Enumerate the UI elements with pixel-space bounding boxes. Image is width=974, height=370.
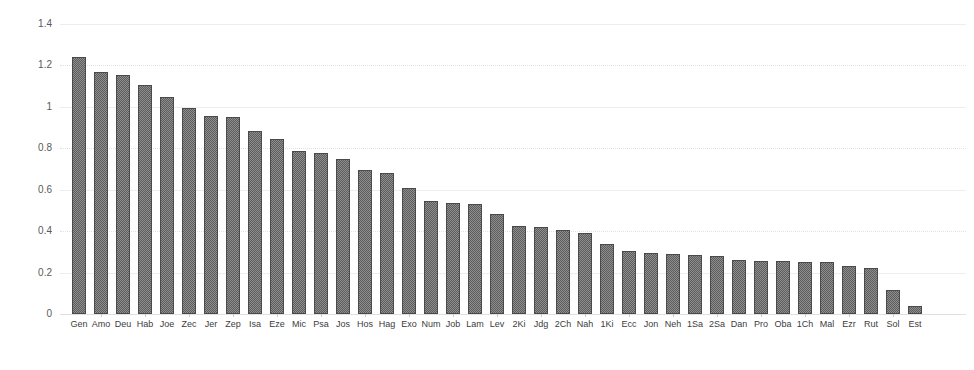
bar-slot bbox=[178, 24, 200, 314]
bar[interactable] bbox=[468, 204, 482, 314]
x-axis-tick-label: Jdg bbox=[530, 318, 552, 330]
bar[interactable] bbox=[424, 201, 438, 314]
x-axis-tick-label: Rut bbox=[860, 318, 882, 330]
x-axis-tick-label: Pro bbox=[750, 318, 772, 330]
bar-slot bbox=[772, 24, 794, 314]
x-axis-tick-mark bbox=[497, 314, 498, 317]
bar[interactable] bbox=[688, 255, 702, 314]
bar[interactable] bbox=[336, 159, 350, 314]
y-axis: 00.20.40.60.811.21.4 bbox=[0, 0, 52, 370]
x-axis-tick-mark bbox=[101, 314, 102, 317]
bar[interactable] bbox=[842, 266, 856, 314]
bar[interactable] bbox=[204, 116, 218, 314]
bar[interactable] bbox=[72, 57, 86, 314]
bar[interactable] bbox=[820, 262, 834, 314]
bar-slot bbox=[156, 24, 178, 314]
bar-slot bbox=[442, 24, 464, 314]
bar[interactable] bbox=[534, 227, 548, 314]
bar[interactable] bbox=[182, 108, 196, 314]
bar[interactable] bbox=[446, 203, 460, 314]
y-axis-tick-label: 1.4 bbox=[38, 19, 52, 29]
bar-slot bbox=[354, 24, 376, 314]
x-axis-line bbox=[60, 314, 966, 315]
bar-slot bbox=[376, 24, 398, 314]
bar-slot bbox=[838, 24, 860, 314]
bar-slot bbox=[882, 24, 904, 314]
bar[interactable] bbox=[380, 173, 394, 314]
x-axis-tick-mark bbox=[629, 314, 630, 317]
x-axis-tick-label: Num bbox=[420, 318, 442, 330]
bar[interactable] bbox=[776, 261, 790, 314]
x-axis-tick-label: Oba bbox=[772, 318, 794, 330]
bar[interactable] bbox=[622, 251, 636, 314]
x-axis-tick-label: Psa bbox=[310, 318, 332, 330]
bar[interactable] bbox=[248, 131, 262, 314]
bar-slot bbox=[706, 24, 728, 314]
bar-slot bbox=[728, 24, 750, 314]
bar[interactable] bbox=[908, 306, 922, 314]
x-axis-tick-mark bbox=[453, 314, 454, 317]
bar-slot bbox=[112, 24, 134, 314]
x-axis-tick-label: Lam bbox=[464, 318, 486, 330]
bar[interactable] bbox=[402, 188, 416, 314]
bar[interactable] bbox=[226, 117, 240, 314]
bar[interactable] bbox=[886, 290, 900, 314]
y-axis-tick-label: 1 bbox=[46, 102, 52, 112]
bar-slot bbox=[860, 24, 882, 314]
x-axis-tick-label: Zep bbox=[222, 318, 244, 330]
x-axis-tick-label: Mic bbox=[288, 318, 310, 330]
x-axis-tick-label: Eze bbox=[266, 318, 288, 330]
bar[interactable] bbox=[600, 244, 614, 314]
bar-slot bbox=[398, 24, 420, 314]
x-axis-tick-label: Nah bbox=[574, 318, 596, 330]
bar[interactable] bbox=[314, 153, 328, 314]
x-axis-tick-label: Gen bbox=[68, 318, 90, 330]
x-axis-tick-label: 2Ch bbox=[552, 318, 574, 330]
x-axis-tick-label: Mal bbox=[816, 318, 838, 330]
bar-slot bbox=[530, 24, 552, 314]
bar-slot bbox=[596, 24, 618, 314]
x-axis-tick-label: 1Sa bbox=[684, 318, 706, 330]
x-axis-tick-label: Deu bbox=[112, 318, 134, 330]
bar[interactable] bbox=[754, 261, 768, 314]
bar-slot bbox=[134, 24, 156, 314]
bar[interactable] bbox=[160, 97, 174, 315]
bar-slot bbox=[486, 24, 508, 314]
bar[interactable] bbox=[270, 139, 284, 314]
bar[interactable] bbox=[666, 254, 680, 314]
bar[interactable] bbox=[138, 85, 152, 314]
bar-slot bbox=[750, 24, 772, 314]
bar[interactable] bbox=[556, 230, 570, 314]
x-axis-tick-label: Zec bbox=[178, 318, 200, 330]
bar[interactable] bbox=[798, 262, 812, 314]
bar-chart: 00.20.40.60.811.21.4 GenAmoDeuHabJoeZecJ… bbox=[0, 0, 974, 370]
bar-slot bbox=[904, 24, 926, 314]
plot-area bbox=[60, 24, 966, 314]
bar[interactable] bbox=[358, 170, 372, 314]
bar[interactable] bbox=[732, 260, 746, 314]
x-axis-tick-mark bbox=[409, 314, 410, 317]
x-axis-tick-mark bbox=[365, 314, 366, 317]
bar-slot bbox=[464, 24, 486, 314]
x-axis-tick-label: Jos bbox=[332, 318, 354, 330]
bar[interactable] bbox=[578, 233, 592, 314]
bar[interactable] bbox=[490, 214, 504, 314]
bar[interactable] bbox=[94, 72, 108, 314]
bar-slot bbox=[618, 24, 640, 314]
bar[interactable] bbox=[116, 75, 130, 314]
x-axis-tick-mark bbox=[321, 314, 322, 317]
x-axis-tick-label: Hag bbox=[376, 318, 398, 330]
bar-slot bbox=[288, 24, 310, 314]
x-axis-tick-label: Est bbox=[904, 318, 926, 330]
x-axis-tick-label: Neh bbox=[662, 318, 684, 330]
bar[interactable] bbox=[710, 256, 724, 314]
bar[interactable] bbox=[292, 151, 306, 314]
bar-slot bbox=[332, 24, 354, 314]
bar-slot bbox=[794, 24, 816, 314]
bar[interactable] bbox=[864, 268, 878, 314]
x-axis-tick-label: Dan bbox=[728, 318, 750, 330]
bar[interactable] bbox=[644, 253, 658, 314]
bar[interactable] bbox=[512, 226, 526, 314]
x-axis-tick-label: Hos bbox=[354, 318, 376, 330]
x-axis-tick-mark bbox=[673, 314, 674, 317]
